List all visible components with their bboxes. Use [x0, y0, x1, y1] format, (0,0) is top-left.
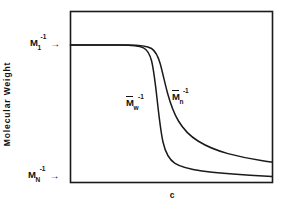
- x-axis-title: c: [70, 190, 274, 200]
- curve-label-mn: Mn-1: [172, 91, 190, 104]
- curve-mw-term: Mw-1: [126, 97, 145, 110]
- y-tick-m1-term: M1-1: [30, 37, 47, 50]
- figure-container: Molecular Weight c M1-1 → MN-1 → Mw-1 Mn…: [0, 0, 282, 208]
- y-tick-m1-arrow-icon: →: [50, 39, 60, 49]
- curve-mn-term: Mn-1: [172, 91, 190, 104]
- curve-mn-superscript: -1: [183, 87, 189, 94]
- y-tick-mn-superscript: -1: [40, 165, 46, 172]
- y-tick-mn-arrow-icon: →: [49, 171, 59, 181]
- curve-mw-subscript: w: [133, 104, 138, 111]
- curve-label-mw: Mw-1: [126, 97, 145, 110]
- y-tick-m1-subscript: 1: [37, 44, 41, 51]
- y-tick-label-mn: MN-1 →: [28, 169, 59, 182]
- y-tick-label-m1: M1-1 →: [30, 37, 60, 50]
- y-tick-m1-superscript: -1: [41, 33, 47, 40]
- y-tick-mn-term: MN-1: [28, 169, 46, 182]
- y-axis-title: Molecular Weight: [0, 0, 14, 208]
- y-tick-mn-subscript: N: [35, 176, 40, 183]
- curve-mn-subscript: n: [179, 98, 183, 105]
- curve-mw-superscript: -1: [138, 93, 144, 100]
